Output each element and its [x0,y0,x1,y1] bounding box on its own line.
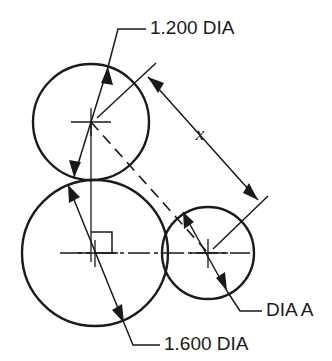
label-top-diameter: 1.200 DIA [150,17,235,38]
arrowhead-top-dia-lower [69,160,81,177]
leader-bottom-dia [124,323,160,345]
label-right-diameter: DIA A [266,299,314,320]
label-x-distance: x [195,123,205,144]
arrowhead-top-dia-upper [101,67,113,85]
center-to-center-construction-line [91,122,208,253]
arrowhead-x-upper [148,77,164,93]
x-extension-line-right [213,196,268,249]
leader-top-dia [108,29,146,67]
label-bottom-diameter: 1.600 DIA [164,333,249,354]
arrowhead-right-dia-upper [183,212,194,229]
center-mark-right-circle [190,239,228,268]
bottom-circle-diameter-dimension [68,185,160,345]
leader-right-dia [227,291,262,311]
arrowhead-bottom-dia-lower [112,304,124,323]
technical-drawing-canvas: 1.200 DIA 1.600 DIA DIA A x [0,0,332,361]
engineering-drawing-svg: 1.200 DIA 1.600 DIA DIA A x [0,0,332,361]
x-dimension-group [97,63,268,249]
top-dia-leader-group [108,29,146,67]
